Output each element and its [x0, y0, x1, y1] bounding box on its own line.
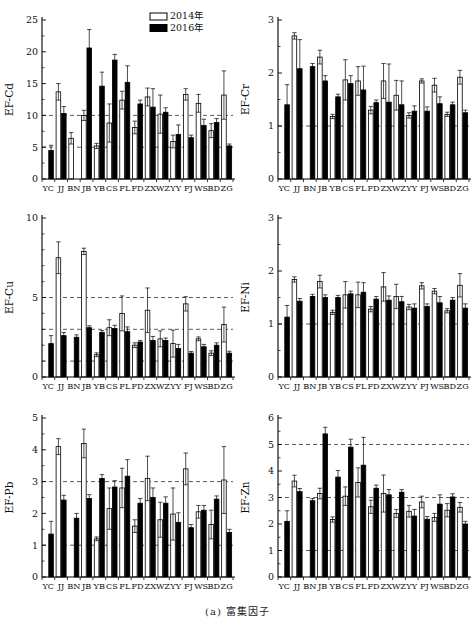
ef-cu-chart: 0510YCJJBNJBYBCSFLFDZXWZYYFJWSBDZGEF-Cu — [2, 206, 239, 403]
bar-2016年-FD — [374, 299, 379, 377]
y-tick-label: 15 — [26, 78, 38, 89]
x-tick-label: CS — [106, 381, 118, 391]
bar-2014年-ZG — [458, 285, 463, 377]
bar-2014年-WS — [196, 339, 201, 377]
x-tick-label: WS — [194, 581, 208, 591]
ef-pb-chart: 012345YCJJBNJBYBCSFLFDZXWZYYFJWSBDZGEF-P… — [2, 406, 239, 603]
y-tick-label: 2 — [268, 265, 274, 276]
y-tick-label: 0 — [268, 371, 274, 382]
x-tick-label: YY — [169, 183, 181, 193]
y-tick-label: 5 — [32, 292, 38, 303]
x-tick-label: CS — [106, 183, 118, 193]
bar-2016年-JJ — [62, 500, 67, 577]
x-tick-label: ZG — [457, 183, 469, 193]
y-tick-label: 2 — [32, 508, 38, 519]
bar-2014年-YB — [330, 116, 335, 179]
bar-2016年-FJ — [189, 138, 194, 179]
x-tick-label: FD — [131, 381, 144, 391]
bar-2016年-WS — [438, 303, 443, 377]
x-tick-label: JJ — [293, 183, 301, 193]
y-tick-label: 0 — [32, 173, 38, 184]
y-tick-label: 3 — [268, 492, 274, 503]
bar-2016年-YB — [100, 332, 105, 377]
x-tick-label: YC — [42, 183, 55, 193]
bar-2014年-FL — [356, 81, 361, 179]
y-tick-label: 1 — [268, 318, 274, 329]
bar-2014年-WS — [432, 517, 437, 577]
bar-2014年-FD — [133, 127, 138, 179]
y-axis-title: EF-Pb — [3, 481, 15, 513]
bar-2016年-ZG — [463, 524, 468, 577]
x-tick-label: CS — [342, 183, 354, 193]
x-tick-label: JJ — [57, 381, 65, 391]
x-tick-label: WZ — [156, 581, 170, 591]
x-tick-label: FD — [131, 183, 144, 193]
bar-2016年-YY — [412, 111, 417, 179]
y-axis-title: EF-Ni — [239, 282, 251, 313]
legend-swatch — [150, 25, 167, 32]
bar-2016年-BD — [450, 105, 455, 179]
bar-2014年-CS — [343, 496, 348, 577]
bar-2014年-JJ — [56, 92, 61, 179]
x-tick-label: ZX — [144, 581, 156, 591]
x-tick-label: YC — [42, 381, 55, 391]
y-tick-label: 5 — [32, 142, 38, 153]
bar-2016年-JB — [323, 81, 328, 179]
y-tick-label: 6 — [268, 412, 274, 423]
y-axis-title: EF-Cu — [3, 281, 15, 314]
bar-2016年-WS — [438, 504, 443, 577]
bar-2014年-FD — [369, 309, 374, 377]
bar-2016年-BN — [310, 501, 315, 577]
bar-2014年-JJ — [292, 36, 297, 179]
bar-2016年-BN — [310, 296, 315, 377]
ef-cr-chart: 0123YCJJBNJBYBCSFLFDZXWZYYFJWSBDZGEF-Cr — [238, 8, 475, 205]
legend-label: 2016年 — [170, 22, 204, 33]
x-tick-label: FD — [131, 581, 144, 591]
bar-2014年-JB — [82, 115, 87, 179]
y-tick-label: 10 — [26, 212, 38, 223]
bar-2014年-JJ — [292, 279, 297, 377]
bar-2016年-JB — [87, 328, 92, 377]
bar-2014年-FJ — [419, 286, 424, 377]
x-tick-label: WZ — [156, 381, 170, 391]
bar-2014年-BD — [445, 311, 450, 377]
x-tick-label: BN — [67, 381, 80, 391]
x-tick-label: BN — [303, 183, 316, 193]
bar-2014年-JJ — [56, 258, 61, 377]
x-tick-label: CS — [342, 381, 354, 391]
x-tick-label: FJ — [184, 183, 193, 193]
x-tick-label: WS — [430, 381, 444, 391]
bar-2014年-JB — [82, 443, 87, 577]
bar-2016年-BD — [214, 345, 219, 377]
bar-2014年-FD — [133, 345, 138, 377]
bar-2014年-WS — [432, 291, 437, 377]
x-tick-label: YC — [42, 581, 55, 591]
bar-2016年-ZX — [387, 300, 392, 377]
bar-2016年-FL — [125, 332, 130, 377]
x-tick-label: YB — [329, 183, 341, 193]
x-tick-label: BD — [208, 183, 221, 193]
bar-2016年-FJ — [425, 519, 430, 577]
x-tick-label: FJ — [420, 381, 429, 391]
x-tick-label: JJ — [293, 581, 301, 591]
x-tick-label: ZG — [221, 381, 233, 391]
x-tick-label: WZ — [392, 581, 406, 591]
bar-2016年-BN — [310, 67, 315, 179]
bar-2014年-BN — [69, 138, 74, 179]
bar-2016年-CS — [348, 84, 353, 179]
y-tick-label: 0 — [32, 371, 38, 382]
bar-2016年-YY — [412, 516, 417, 577]
x-tick-label: BN — [303, 381, 316, 391]
x-tick-label: WS — [194, 381, 208, 391]
legend-label: 2014年 — [170, 10, 204, 21]
bar-2014年-WS — [432, 85, 437, 179]
bar-2016年-ZG — [227, 532, 232, 577]
bar-2014年-JB — [318, 57, 323, 179]
x-tick-label: YY — [405, 183, 417, 193]
bar-2016年-ZG — [227, 146, 232, 179]
bar-2016年-WS — [202, 347, 207, 377]
x-tick-label: YB — [329, 381, 341, 391]
bar-2014年-YB — [330, 312, 335, 377]
x-tick-label: JB — [317, 183, 327, 193]
x-tick-label: WS — [430, 183, 444, 193]
